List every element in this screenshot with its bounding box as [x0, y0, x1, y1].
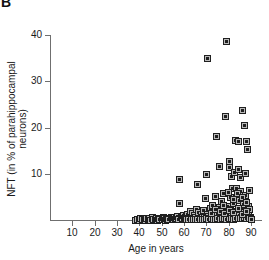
- figure-panel-b: B 10203040 102030405060708090 Age in yea…: [0, 0, 269, 260]
- x-tick-label: 80: [218, 228, 240, 238]
- data-point-marker: [248, 216, 255, 223]
- data-point-marker: [216, 163, 223, 170]
- x-tick-label: 40: [128, 228, 150, 238]
- x-tick-label: 20: [84, 228, 106, 238]
- x-tick-mark: [117, 221, 118, 226]
- data-point-marker: [244, 146, 251, 153]
- data-point-marker: [213, 133, 220, 140]
- x-tick-label: 70: [195, 228, 217, 238]
- data-point-marker: [246, 187, 253, 194]
- panel-label: B: [1, 0, 11, 9]
- x-tick-label: 30: [106, 228, 128, 238]
- data-point-marker: [220, 202, 227, 209]
- x-tick-mark: [95, 221, 96, 226]
- x-tick-label: 50: [151, 228, 173, 238]
- data-point-marker: [230, 196, 237, 203]
- data-point-marker: [243, 199, 250, 206]
- data-point-marker: [194, 181, 201, 188]
- x-axis-title: Age in years: [50, 243, 262, 254]
- data-point-marker: [176, 176, 183, 183]
- data-point-marker: [243, 138, 250, 145]
- data-point-marker: [203, 171, 210, 178]
- data-point-marker: [176, 200, 183, 207]
- x-tick-mark: [72, 221, 73, 226]
- data-point-marker: [241, 122, 248, 129]
- data-point-marker: [222, 113, 229, 120]
- data-point-marker: [235, 138, 242, 145]
- data-point-marker: [239, 107, 246, 114]
- x-tick-label: 60: [173, 228, 195, 238]
- data-point-marker: [223, 38, 230, 45]
- x-tick-label: 10: [61, 228, 83, 238]
- x-tick-label: 90: [240, 228, 262, 238]
- data-point-marker: [204, 55, 211, 62]
- data-point-marker: [242, 170, 249, 177]
- data-point-marker: [225, 189, 232, 196]
- data-point-marker: [243, 208, 250, 215]
- y-axis-title: NFT (in % of parahippocampal neurons): [6, 39, 28, 219]
